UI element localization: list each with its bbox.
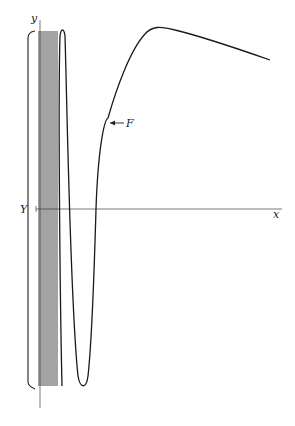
limit-bracket (28, 31, 35, 389)
oscillation-lines (39, 31, 57, 386)
curve-F-label: F (125, 117, 134, 130)
y-axis-label: y (30, 12, 38, 25)
arrow-head-icon (110, 121, 115, 126)
x-axis-label: x (273, 208, 280, 221)
curve-F (59, 27, 270, 386)
diagram: y x Y F (0, 0, 295, 426)
